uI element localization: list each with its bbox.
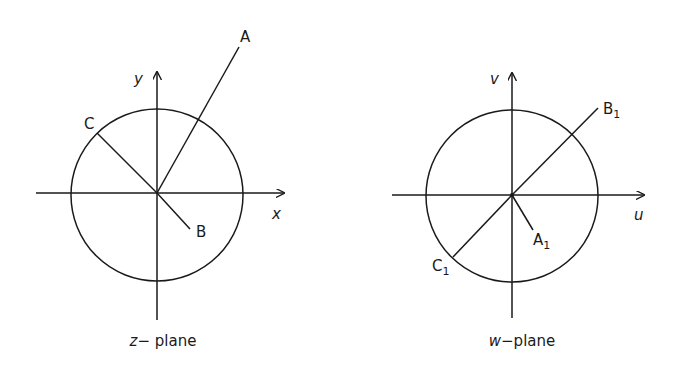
x-axis-label: x <box>271 205 281 223</box>
u-axis-label: u <box>634 206 644 224</box>
point-b-label: B <box>196 223 206 241</box>
y-axis-label: y <box>133 70 144 88</box>
z-plane-panel: x y A B C z− plane <box>36 28 284 350</box>
ray-a <box>157 47 239 193</box>
mapping-diagram: x y A B C z− plane u v A1 B1 C1 w−plane <box>0 0 680 373</box>
point-a1-label: A1 <box>533 231 550 252</box>
point-b1-label: B1 <box>603 100 620 121</box>
v-axis-label: v <box>490 70 500 88</box>
ray-a1 <box>512 195 533 230</box>
ray-c <box>97 133 157 193</box>
point-a-label: A <box>240 28 251 46</box>
w-plane-panel: u v A1 B1 C1 w−plane <box>392 70 644 350</box>
z-plane-caption: z− plane <box>129 332 197 350</box>
ray-c1 <box>453 195 512 257</box>
point-c-label: C <box>84 115 94 133</box>
w-origin-dot <box>510 193 514 197</box>
point-c1-label: C1 <box>432 257 449 278</box>
w-plane-caption: w−plane <box>489 332 555 350</box>
ray-b <box>157 193 190 229</box>
